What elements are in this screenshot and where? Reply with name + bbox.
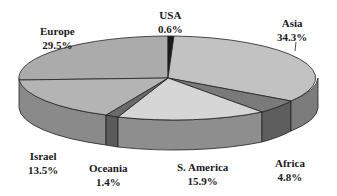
label-asia-pct: 34.3% bbox=[277, 30, 307, 44]
label-samerica: S. America 15.9% bbox=[177, 160, 228, 188]
label-africa-name: Africa bbox=[275, 156, 305, 170]
label-usa-pct: 0.6% bbox=[158, 22, 183, 36]
label-oceania-pct: 1.4% bbox=[89, 175, 128, 189]
label-usa-name: USA bbox=[158, 8, 183, 22]
label-africa-pct: 4.8% bbox=[275, 170, 305, 184]
label-oceania-name: Oceania bbox=[89, 161, 128, 175]
label-europe-name: Europe bbox=[40, 24, 75, 38]
label-samerica-name: S. America bbox=[177, 160, 228, 174]
label-europe: Europe 29.5% bbox=[40, 24, 75, 52]
label-oceania: Oceania 1.4% bbox=[89, 161, 128, 189]
label-israel-pct: 13.5% bbox=[28, 163, 58, 177]
label-africa: Africa 4.8% bbox=[275, 156, 305, 184]
label-israel-name: Israel bbox=[28, 149, 58, 163]
side-oceania bbox=[106, 115, 118, 147]
label-usa: USA 0.6% bbox=[158, 8, 183, 36]
label-asia-name: Asia bbox=[277, 16, 307, 30]
label-asia: Asia 34.3% bbox=[277, 16, 307, 44]
label-europe-pct: 29.5% bbox=[40, 38, 75, 52]
label-samerica-pct: 15.9% bbox=[177, 174, 228, 188]
label-israel: Israel 13.5% bbox=[28, 149, 58, 177]
